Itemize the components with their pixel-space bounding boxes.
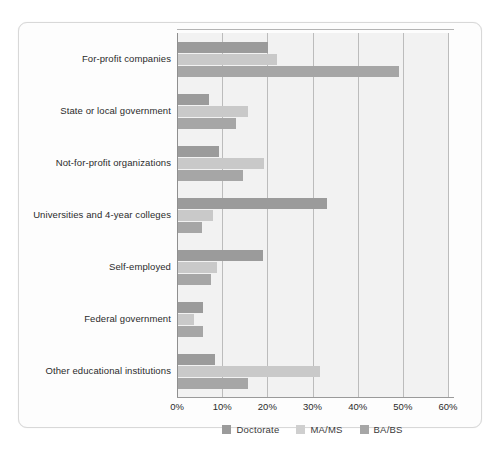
x-tick-label: 20% (245, 401, 289, 412)
chart-legend: DoctorateMA/MSBA/BS (177, 421, 448, 437)
bar-group (178, 198, 449, 233)
bar-doctorate (178, 250, 263, 261)
bar-babs (178, 378, 248, 389)
bar-mams (178, 366, 320, 377)
legend-label: BA/BS (374, 424, 403, 435)
x-tick-label: 40% (336, 401, 380, 412)
bar-doctorate (178, 146, 219, 157)
x-tick-label: 30% (291, 401, 335, 412)
y-axis-category-labels: For-profit companiesState or local gover… (8, 33, 171, 397)
bar-mams (178, 106, 248, 117)
chart-figure: For-profit companiesState or local gover… (0, 0, 501, 460)
x-tick-label: 50% (381, 401, 425, 412)
x-tick-label: 0% (155, 401, 199, 412)
legend-label: MA/MS (310, 424, 342, 435)
bar-group (178, 146, 449, 181)
bar-babs (178, 326, 203, 337)
bar-group (178, 354, 449, 389)
x-axis-tick-labels: 0%10%20%30%40%50%60% (177, 401, 448, 417)
bar-doctorate (178, 42, 268, 53)
category-label: Other educational institutions (9, 365, 171, 376)
legend-item-babs[interactable]: BA/BS (360, 424, 403, 435)
x-tick-label: 60% (426, 401, 470, 412)
bar-mams (178, 210, 213, 221)
category-label: Universities and 4-year colleges (9, 209, 171, 220)
category-label: Not-for-profit organizations (9, 157, 171, 168)
bar-babs (178, 118, 236, 129)
legend-swatch-icon (296, 425, 305, 434)
bar-group (178, 250, 449, 285)
category-label: Federal government (9, 313, 171, 324)
bar-babs (178, 222, 202, 233)
bar-mams (178, 314, 194, 325)
bar-doctorate (178, 302, 203, 313)
bar-doctorate (178, 354, 215, 365)
bar-group (178, 94, 449, 129)
category-label: Self-employed (9, 261, 171, 272)
category-label: For-profit companies (9, 53, 171, 64)
legend-swatch-icon (360, 425, 369, 434)
axis-line-bottom (177, 397, 454, 398)
bar-mams (178, 262, 217, 273)
category-label: State or local government (9, 105, 171, 116)
bar-babs (178, 66, 399, 77)
bar-group (178, 302, 449, 337)
legend-label: Doctorate (236, 424, 279, 435)
bar-mams (178, 158, 264, 169)
bar-babs (178, 274, 211, 285)
legend-item-doctorate[interactable]: Doctorate (222, 424, 279, 435)
legend-item-mams[interactable]: MA/MS (296, 424, 342, 435)
axis-line-top (177, 29, 454, 30)
plot-area (177, 33, 448, 397)
x-tick-label: 10% (200, 401, 244, 412)
bar-doctorate (178, 94, 209, 105)
bar-doctorate (178, 198, 327, 209)
legend-swatch-icon (222, 425, 231, 434)
bar-mams (178, 54, 277, 65)
bar-babs (178, 170, 243, 181)
bar-group (178, 42, 449, 77)
